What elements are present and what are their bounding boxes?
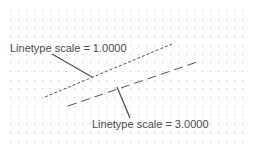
grid-dot [226,45,227,46]
grid-dot [218,132,219,133]
grid-dot [98,62,99,63]
grid-dot [66,36,67,37]
grid-dot [58,36,59,37]
grid-dot [234,71,235,72]
grid-dot [242,141,243,142]
grid-dot [66,19,67,20]
grid-dot [58,62,59,63]
grid-dot [130,45,131,46]
grid-dot [114,132,115,133]
grid-dot [74,80,75,81]
grid-dot [226,141,227,142]
grid-dot [50,97,51,98]
grid-dot [130,71,131,72]
grid-dot [114,141,115,142]
grid-dot [146,71,147,72]
grid-dot [130,132,131,133]
grid-dot [218,80,219,81]
grid-dot [42,19,43,20]
grid-dot [210,36,211,37]
grid-dot [114,106,115,107]
grid-dot [234,88,235,89]
grid-dot [202,54,203,55]
grid-dot [226,54,227,55]
grid-dot [42,54,43,55]
grid-dot [10,114,11,115]
grid-dot [186,88,187,89]
grid-dot [146,45,147,46]
grid-dot [10,141,11,142]
grid-dot [66,132,67,133]
grid-dot [242,106,243,107]
grid-dot [82,106,83,107]
grid-dot [218,27,219,28]
grid-dot [58,114,59,115]
grid-dot [82,132,83,133]
grid-dot [202,97,203,98]
grid-dot [106,19,107,20]
grid-dot [154,54,155,55]
grid-dot [178,36,179,37]
grid-dot [186,97,187,98]
grid-dot [130,88,131,89]
grid-dot [218,10,219,11]
grid-dot [202,36,203,37]
grid-dot [226,114,227,115]
grid-dot [194,141,195,142]
grid-dot [114,54,115,55]
grid-dot [146,114,147,115]
grid-dot [98,27,99,28]
grid-dot [82,97,83,98]
grid-dot [130,19,131,20]
grid-dot [50,19,51,20]
grid-dot [26,10,27,11]
grid-dot [90,97,91,98]
grid-dot [170,36,171,37]
grid-dot [66,10,67,11]
leader-top [52,54,92,77]
grid-dot [138,80,139,81]
grid-dot [218,71,219,72]
grid-dot [90,114,91,115]
grid-dot [130,54,131,55]
grid-dot [90,27,91,28]
grid-dot [90,10,91,11]
grid-dot [34,123,35,124]
grid-dot [242,19,243,20]
grid-dot [178,106,179,107]
leader-lines [52,54,130,118]
grid-dot [90,132,91,133]
grid-dot [10,132,11,133]
grid-dot [74,97,75,98]
grid-dot [242,62,243,63]
grid-dot [122,114,123,115]
grid-dot [202,62,203,63]
grid-dot [74,123,75,124]
grid-dot [42,132,43,133]
grid-dot [218,36,219,37]
grid-dot [122,88,123,89]
grid-dot [138,114,139,115]
grid-dot [50,123,51,124]
grid-dot [18,114,19,115]
grid-dot [154,80,155,81]
grid-dot [170,97,171,98]
grid-dot [66,71,67,72]
grid-dot [58,19,59,20]
grid-dot [130,114,131,115]
grid-dot [178,27,179,28]
grid-dot [74,71,75,72]
grid-dot [74,114,75,115]
grid-dot [162,80,163,81]
grid-dot [178,71,179,72]
grid-dot [170,27,171,28]
grid-dot [242,54,243,55]
grid-dot [186,36,187,37]
grid-dot [186,114,187,115]
grid-dot [50,27,51,28]
grid-dot [194,88,195,89]
grid-dot [154,36,155,37]
grid-dot [98,71,99,72]
grid-dot [90,141,91,142]
grid-dot [226,106,227,107]
